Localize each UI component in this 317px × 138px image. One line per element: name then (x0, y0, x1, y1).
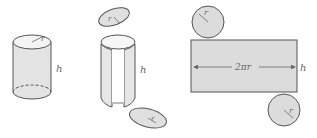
diagram-svg: r h r h r r (0, 0, 317, 138)
net-figure: r 2πr h r (191, 6, 306, 126)
cylinder-figure: r h (13, 34, 62, 99)
cut-cylinder-figure: r h r (96, 4, 168, 132)
net-width-label: 2πr (234, 62, 252, 72)
cylinder-height-label: h (56, 63, 62, 74)
diagram-canvas: r h r h r r (0, 0, 317, 138)
cut-cylinder-height-label: h (140, 64, 146, 75)
net-height-label: h (300, 62, 306, 73)
